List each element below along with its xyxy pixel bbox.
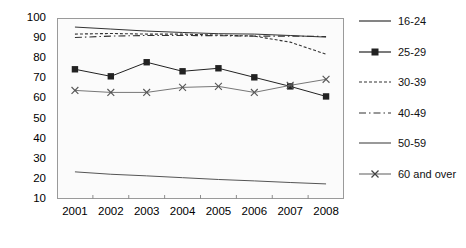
y-axis-tick-20: 20 — [0, 173, 46, 184]
legend-label: 40-49 — [398, 107, 426, 119]
chart-legend: 16-2425-2930-3940-4950-5960 and over — [358, 14, 466, 189]
line-plain-thin-icon — [358, 137, 392, 149]
y-axis-tick-100: 100 — [0, 12, 46, 23]
legend-label: 30-39 — [398, 76, 426, 88]
legend-label: 25-29 — [398, 46, 426, 58]
data-point-marker — [323, 93, 329, 99]
legend-item-30-39[interactable]: 30-39 — [358, 75, 426, 89]
line-dotted-icon — [358, 76, 392, 88]
y-axis-tick-50: 50 — [0, 113, 46, 124]
data-point-marker — [143, 59, 149, 65]
legend-label: 16-24 — [398, 15, 426, 27]
data-point-marker — [287, 83, 293, 89]
data-point-marker — [179, 68, 185, 74]
y-axis-tick-90: 90 — [0, 32, 46, 43]
series-50-59 — [75, 172, 326, 184]
data-point-marker — [215, 65, 221, 71]
line-chart: 102030405060708090100 200120022003200420… — [0, 0, 466, 248]
legend-item-16-24[interactable]: 16-24 — [358, 14, 426, 28]
y-axis-tick-60: 60 — [0, 92, 46, 103]
data-point-marker — [251, 74, 257, 80]
y-axis-tick-10: 10 — [0, 193, 46, 204]
legend-item-60-and-over[interactable]: 60 and over — [358, 167, 456, 181]
y-axis-tick-70: 70 — [0, 72, 46, 83]
y-axis-tick-30: 30 — [0, 153, 46, 164]
line-square-marker-icon — [358, 46, 392, 58]
line-cross-marker-icon — [358, 168, 392, 180]
data-point-marker — [72, 66, 78, 72]
data-point-marker — [108, 73, 114, 79]
legend-item-50-59[interactable]: 50-59 — [358, 136, 426, 150]
legend-label: 50-59 — [398, 137, 426, 149]
legend-item-40-49[interactable]: 40-49 — [358, 106, 426, 120]
series-40-49 — [75, 36, 326, 38]
y-axis-tick-80: 80 — [0, 52, 46, 63]
line-plain-icon — [358, 15, 392, 27]
legend-label: 60 and over — [398, 168, 456, 180]
line-dashdot-icon — [358, 107, 392, 119]
series-canvas — [57, 18, 344, 199]
legend-item-25-29[interactable]: 25-29 — [358, 45, 426, 59]
y-axis-tick-40: 40 — [0, 133, 46, 144]
x-axis-tick-2008: 2008 — [304, 205, 348, 217]
